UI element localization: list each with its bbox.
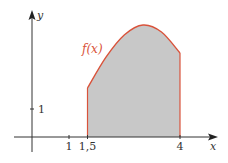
- area-under-curve-diagram: x y 11,54 1 f(x): [0, 0, 228, 163]
- x-axis-label: x: [210, 140, 217, 153]
- x-tick-label: 1: [66, 140, 73, 153]
- x-tick-label: 1,5: [79, 140, 97, 153]
- y-tick-label: 1: [38, 103, 45, 116]
- function-label: f(x): [81, 42, 103, 56]
- x-ticks: 11,54: [66, 135, 184, 153]
- y-axis-label: y: [36, 9, 44, 22]
- x-tick-label: 4: [177, 140, 184, 153]
